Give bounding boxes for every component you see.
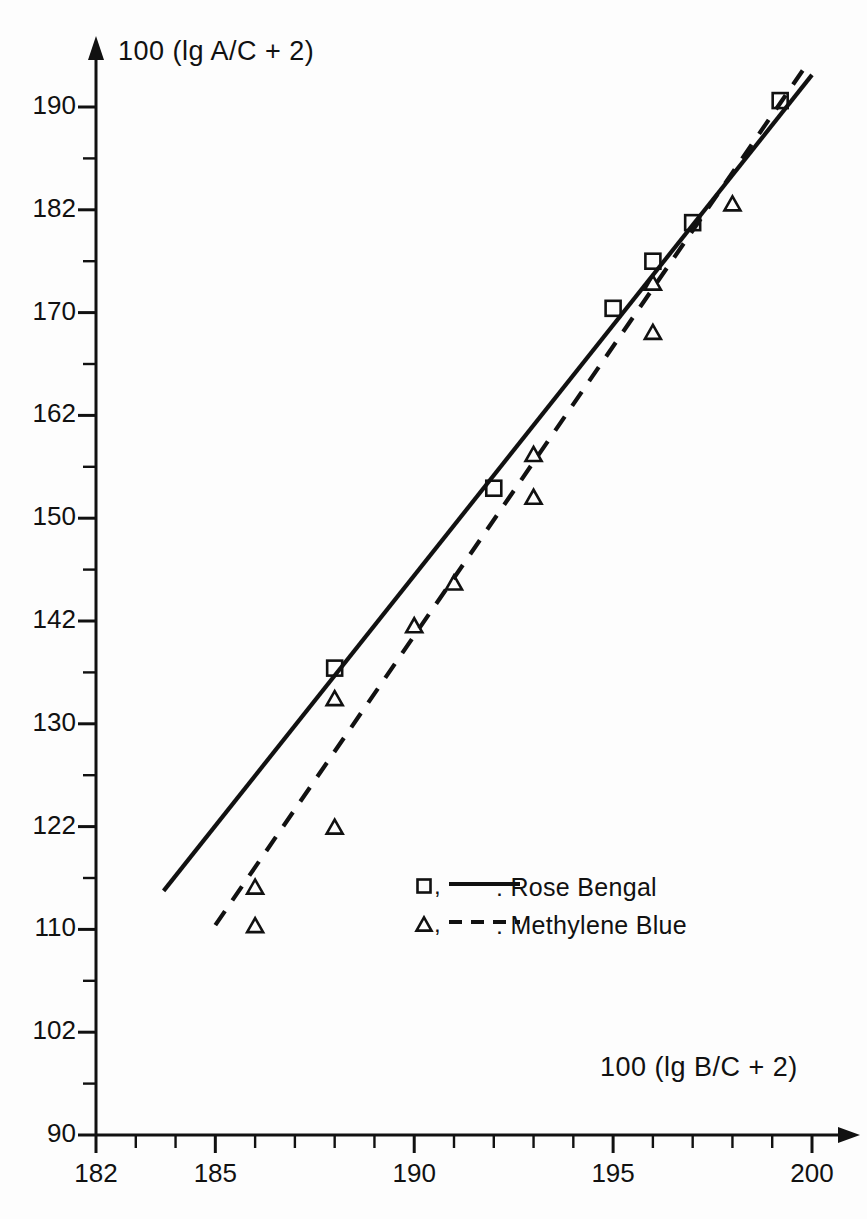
x-tick-label: 195 xyxy=(568,1158,658,1189)
data-point-methylene-blue-6 xyxy=(526,490,542,504)
legend-label-rose-bengal: : Rose Bengal xyxy=(496,873,657,902)
x-tick-label: 182 xyxy=(51,1158,141,1189)
x-tick-label: 200 xyxy=(767,1158,857,1189)
plot-canvas: ,, xyxy=(0,0,867,1219)
legend-square-icon xyxy=(418,880,431,893)
series-group xyxy=(164,68,812,932)
data-point-methylene-blue-5 xyxy=(446,575,462,589)
fit-line-methylene-blue xyxy=(215,68,804,925)
data-point-methylene-blue-8 xyxy=(645,325,661,339)
x-axis-title: 100 (lg B/C + 2) xyxy=(600,1052,798,1083)
chart-figure: ,, 100 (lg A/C + 2) 100 (lg B/C + 2) 901… xyxy=(0,0,867,1219)
data-point-methylene-blue-10 xyxy=(724,196,740,210)
y-tick-label: 122 xyxy=(6,810,76,841)
x-tick-label: 190 xyxy=(369,1158,459,1189)
y-tick-label: 150 xyxy=(6,501,76,532)
y-axis-title: 100 (lg A/C + 2) xyxy=(118,36,314,67)
y-tick-label: 170 xyxy=(6,296,76,327)
y-tick-label: 90 xyxy=(6,1118,76,1149)
data-point-methylene-blue-0 xyxy=(247,918,263,932)
y-tick-label: 130 xyxy=(6,707,76,738)
y-tick-label: 162 xyxy=(6,398,76,429)
data-point-rose-bengal-2 xyxy=(606,301,621,316)
legend-triangle-icon xyxy=(417,917,432,930)
legend-label-methylene-blue: : Methylene Blue xyxy=(496,911,687,940)
y-tick-label: 142 xyxy=(6,604,76,635)
y-axis-arrow-icon xyxy=(88,36,104,60)
x-tick-label: 185 xyxy=(170,1158,260,1189)
data-point-methylene-blue-3 xyxy=(327,691,343,705)
data-point-methylene-blue-1 xyxy=(247,880,263,894)
y-tick-label: 182 xyxy=(6,193,76,224)
data-point-methylene-blue-2 xyxy=(327,820,343,834)
legend-comma-0: , xyxy=(434,872,441,899)
x-axis-arrow-icon xyxy=(838,1127,860,1143)
y-tick-label: 102 xyxy=(6,1015,76,1046)
y-tick-label: 190 xyxy=(6,90,76,121)
y-tick-label: 110 xyxy=(6,912,76,943)
legend-comma-1: , xyxy=(434,910,441,937)
axes-group xyxy=(78,36,860,1153)
